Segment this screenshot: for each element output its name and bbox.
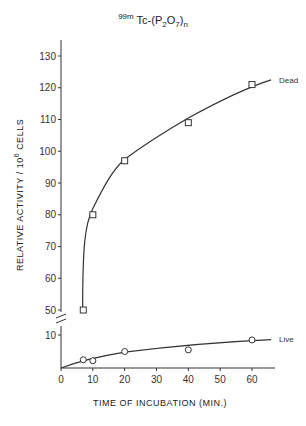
- live-data-point: [80, 357, 86, 363]
- dead-data-point: [80, 307, 86, 313]
- y-tick-label: 110: [40, 114, 56, 125]
- dead-data-point: [249, 82, 255, 88]
- dead-data-point: [122, 158, 128, 164]
- x-tick-label: 60: [246, 374, 258, 385]
- y-tick-label: 100: [39, 146, 56, 157]
- x-tick-label: 30: [151, 374, 163, 385]
- x-tick-label: 10: [87, 374, 99, 385]
- chart-plot: 5060708090100110120130100102030405060Dea…: [0, 0, 306, 426]
- axis-break-mark: [56, 314, 66, 318]
- y-tick-label: 60: [45, 273, 57, 284]
- y-tick-label: 10: [45, 330, 57, 341]
- x-tick-label: 0: [58, 374, 64, 385]
- x-tick-label: 50: [215, 374, 227, 385]
- dead-data-point: [185, 120, 191, 126]
- dead-curve: [83, 80, 271, 310]
- y-tick-label: 80: [45, 209, 57, 220]
- y-tick-label: 90: [45, 178, 57, 189]
- legend-live-label: Live: [279, 335, 294, 344]
- y-tick-label: 130: [39, 51, 56, 62]
- live-data-point: [185, 347, 191, 353]
- live-data-point: [122, 349, 128, 355]
- y-tick-label: 120: [39, 82, 56, 93]
- live-data-point: [249, 337, 255, 343]
- x-tick-label: 40: [183, 374, 195, 385]
- axis-break-mark: [56, 319, 66, 323]
- dead-data-point: [90, 212, 96, 218]
- x-tick-label: 20: [119, 374, 131, 385]
- y-tick-label: 70: [45, 241, 57, 252]
- legend-dead-label: Dead: [279, 76, 298, 85]
- live-data-point: [90, 358, 96, 364]
- y-tick-label: 50: [45, 305, 57, 316]
